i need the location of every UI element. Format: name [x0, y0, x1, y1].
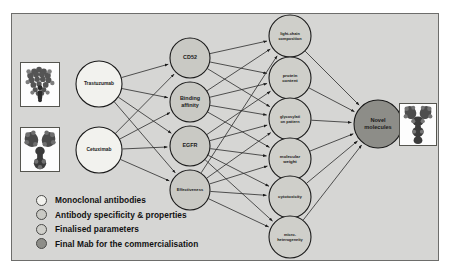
node-label-novel-molecules: molecules — [364, 124, 391, 130]
cetuximab-structure-image — [20, 127, 60, 172]
node-label-molecular-weight: molecular — [280, 154, 301, 159]
edge-light-chain-composition-to-novel-molecules — [305, 51, 359, 105]
legend: Monoclonal antibodiesAntibody specificit… — [36, 193, 266, 251]
node-label-protein-content: content — [282, 78, 298, 83]
edge-egfr-to-protein-content — [207, 91, 271, 134]
legend-label: Monoclonal antibodies — [55, 195, 146, 205]
edge-binding-affinity-to-light-chain-composition — [207, 49, 270, 91]
legend-item-3: Final Mab for the commercialisation — [36, 237, 266, 252]
node-label-cytotoxicity: cytotoxicity — [278, 194, 302, 199]
node-cetuximab[interactable]: Cetuximab — [76, 127, 122, 173]
node-label-binding-affinity: affinity — [181, 102, 199, 108]
legend-label: Final Mab for the commercialisation — [55, 239, 198, 249]
edge-cetuximab-to-cd52 — [116, 74, 175, 133]
node-label-novel-molecules: Novel — [370, 117, 386, 123]
node-glycosylation-pattern[interactable]: glycosylation pattern — [269, 98, 311, 140]
legend-item-0: Monoclonal antibodies — [36, 193, 266, 208]
node-label-glycosylation-pattern: on pattern — [280, 119, 300, 124]
figure-canvas: TrastuzumabCetuximabCD52BindingaffinityE… — [0, 0, 450, 274]
edge-cd52-to-protein-content — [210, 62, 267, 73]
legend-item-2: Finalised parameters — [36, 222, 266, 237]
node-label-effectiveness: Effectiveness — [177, 187, 204, 192]
node-egfr[interactable]: EGFR — [170, 126, 210, 166]
node-label-cetuximab: Cetuximab — [86, 147, 111, 152]
node-protein-content[interactable]: proteincontent — [269, 57, 311, 99]
node-label-molecular-weight: weight — [282, 159, 297, 164]
edge-trastuzumab-to-binding-affinity — [122, 89, 168, 98]
node-micro-heterogeneity[interactable]: micro-heterogeneity — [269, 216, 311, 258]
edge-cytotoxicity-to-novel-molecules — [307, 141, 358, 183]
node-label-protein-content: protein — [283, 73, 298, 78]
novel-molecule-structure-image — [399, 103, 437, 146]
edge-glycosylation-pattern-to-novel-molecules — [311, 120, 351, 122]
legend-label: Antibody specificity & properties — [55, 210, 187, 220]
node-trastuzumab[interactable]: Trastuzumab — [76, 61, 122, 107]
node-label-micro-heterogeneity: heterogeneity — [277, 237, 303, 242]
node-cytotoxicity[interactable]: cytotoxicity — [269, 176, 311, 218]
node-cd52[interactable]: CD52 — [170, 38, 210, 78]
node-label-trastuzumab: Trastuzumab — [84, 81, 114, 86]
edge-cetuximab-to-egfr — [122, 147, 167, 149]
legend-label: Finalised parameters — [55, 224, 139, 234]
edge-cd52-to-light-chain-composition — [210, 41, 267, 54]
edge-egfr-to-glycosylation-pattern — [210, 125, 267, 141]
edge-egfr-to-molecular-weight — [210, 149, 266, 156]
edge-cetuximab-to-effectiveness — [121, 159, 170, 180]
edge-trastuzumab-to-cd52 — [122, 64, 169, 77]
trastuzumab-structure-image — [20, 62, 60, 107]
edge-binding-affinity-to-molecular-weight — [208, 112, 270, 147]
legend-swatch-icon — [36, 195, 47, 206]
node-label-binding-affinity: Binding — [180, 95, 200, 101]
node-label-egfr: EGFR — [183, 142, 198, 148]
edge-protein-content-to-novel-molecules — [309, 88, 354, 112]
edge-cd52-to-glycosylation-pattern — [208, 69, 270, 107]
legend-swatch-icon — [36, 224, 47, 235]
edge-binding-affinity-to-protein-content — [210, 84, 267, 98]
legend-swatch-icon — [36, 209, 47, 220]
legend-item-1: Antibody specificity & properties — [36, 208, 266, 223]
node-label-light-chain-composition: composition — [278, 36, 302, 41]
node-binding-affinity[interactable]: Bindingaffinity — [170, 82, 210, 122]
edge-binding-affinity-to-glycosylation-pattern — [210, 105, 267, 115]
edge-molecular-weight-to-novel-molecules — [310, 134, 353, 151]
edge-micro-heterogeneity-to-novel-molecules — [303, 145, 361, 220]
node-label-cd52: CD52 — [183, 54, 197, 60]
node-molecular-weight[interactable]: molecularweight — [269, 138, 311, 180]
legend-swatch-icon — [36, 238, 47, 249]
node-light-chain-composition[interactable]: light-chaincomposition — [269, 15, 311, 57]
node-novel-molecules[interactable]: Novelmolecules — [354, 100, 402, 148]
